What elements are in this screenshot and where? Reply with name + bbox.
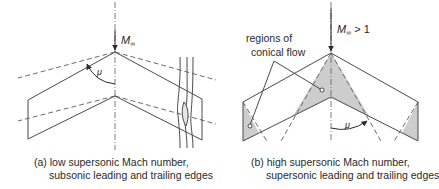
freestream-label: M∞ > 1 — [337, 23, 370, 36]
caption-a-line2: subsonic leading and trailing edges — [34, 169, 213, 182]
mach-angle-label: μ — [96, 67, 102, 77]
annotation-leader-right — [274, 61, 322, 90]
annotation-text: regions of conical flow — [246, 32, 306, 58]
panel-b-diagram: M∞ > 1 μ regions of conical flow — [243, 2, 418, 143]
caption-b-line1: (b) high supersonic Mach number, — [251, 156, 410, 168]
mach-line-trailing-left — [18, 96, 115, 121]
streamline-bulge — [182, 102, 188, 126]
freestream-label: M∞ — [121, 34, 135, 47]
caption-a: (a) low supersonic Mach number, subsonic… — [34, 156, 213, 182]
leader-endpoint-left — [248, 124, 252, 128]
streamline-1 — [178, 57, 181, 148]
caption-b: (b) high supersonic Mach number, superso… — [251, 156, 439, 182]
panel-a-diagram: M∞ μ — [18, 2, 216, 150]
mach-line-leading-right — [115, 52, 216, 80]
mach-angle-label: μ — [344, 120, 350, 130]
mach-line-trailing-right — [115, 96, 216, 124]
caption-a-line1: (a) low supersonic Mach number, — [34, 156, 189, 168]
conical-region-right-tip — [402, 102, 418, 141]
caption-b-line2: supersonic leading and trailing edges — [251, 169, 439, 182]
leader-endpoint-right — [320, 88, 324, 92]
annotation-leader-left — [250, 61, 274, 125]
